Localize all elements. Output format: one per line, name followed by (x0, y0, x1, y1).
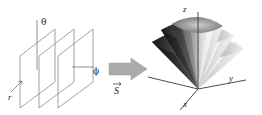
plane-middle (39, 29, 74, 108)
plane-back (20, 29, 55, 108)
label-r: r (8, 92, 12, 102)
nested-cones-plot: z y x (148, 4, 246, 110)
label-z-axis: z (182, 4, 187, 14)
figure-canvas: θ r ϕ S (0, 0, 262, 116)
arrow-shape (109, 58, 147, 80)
figure-container: θ r ϕ S (0, 0, 262, 116)
label-phi: ϕ (93, 66, 99, 76)
plane-front (58, 29, 93, 108)
label-map-symbol: S (114, 85, 119, 96)
label-theta: θ (41, 17, 46, 27)
transformation-arrow: S (109, 58, 147, 96)
label-y-axis: y (228, 73, 233, 83)
label-x-axis: x (182, 99, 187, 109)
parameter-space-planes: θ r ϕ (8, 17, 99, 108)
